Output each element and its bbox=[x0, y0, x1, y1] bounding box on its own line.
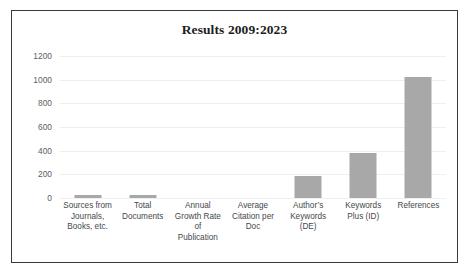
y-axis-tick-label: 1200 bbox=[33, 51, 52, 61]
bar-slot bbox=[336, 56, 391, 198]
bar-slot bbox=[115, 56, 170, 198]
x-axis-category-label: AverageCitation perDoc bbox=[225, 201, 280, 233]
bar[interactable] bbox=[350, 153, 377, 198]
x-axis-label-line: Books, etc. bbox=[67, 222, 108, 231]
x-axis-category-label: AnnualGrowth RateofPublication bbox=[170, 201, 225, 243]
y-axis-tick-label: 800 bbox=[38, 98, 52, 108]
x-axis-label-line: Growth Rate bbox=[175, 212, 221, 221]
x-axis: Sources fromJournals,Books, etc.TotalDoc… bbox=[60, 201, 446, 263]
y-axis: 120010008006004002000 bbox=[12, 56, 56, 198]
bar-series bbox=[60, 56, 446, 198]
x-axis-label-line: Documents bbox=[122, 212, 163, 221]
bar-slot bbox=[391, 56, 446, 198]
x-axis-label-line: Citation per bbox=[232, 212, 274, 221]
y-axis-tick-label: 600 bbox=[38, 122, 52, 132]
bar-slot bbox=[281, 56, 336, 198]
bar[interactable] bbox=[405, 77, 432, 198]
x-axis-label-line: Doc bbox=[246, 222, 261, 231]
bar[interactable] bbox=[74, 195, 101, 198]
chart-canvas: Results 2009:2023 120010008006004002000 … bbox=[12, 11, 457, 262]
x-axis-label-line: of bbox=[194, 222, 201, 231]
x-axis-label-line: (DE) bbox=[300, 222, 317, 231]
bar-slot bbox=[60, 56, 115, 198]
x-axis-label-line: Author’s bbox=[293, 201, 323, 210]
x-axis-category-label: References bbox=[391, 201, 446, 212]
y-axis-tick-label: 1000 bbox=[33, 75, 52, 85]
bar[interactable] bbox=[129, 195, 156, 198]
y-axis-tick-label: 400 bbox=[38, 146, 52, 156]
x-axis-category-label: TotalDocuments bbox=[115, 201, 170, 222]
bar-slot bbox=[225, 56, 280, 198]
gridline bbox=[60, 198, 446, 199]
chart-title: Results 2009:2023 bbox=[12, 22, 457, 38]
x-axis-label-line: Keywords bbox=[290, 212, 326, 221]
bar-slot bbox=[170, 56, 225, 198]
bar[interactable] bbox=[295, 176, 322, 198]
x-axis-label-line: Keywords bbox=[345, 201, 381, 210]
y-axis-tick-label: 0 bbox=[47, 193, 52, 203]
x-axis-category-label: Author’sKeywords(DE) bbox=[281, 201, 336, 233]
x-axis-label-line: References bbox=[397, 201, 439, 210]
y-axis-tick-label: 200 bbox=[38, 169, 52, 179]
x-axis-label-line: Sources from bbox=[63, 201, 112, 210]
x-axis-category-label: Sources fromJournals,Books, etc. bbox=[60, 201, 115, 233]
plot-area bbox=[60, 56, 446, 198]
x-axis-label-line: Publication bbox=[178, 233, 218, 242]
x-axis-label-line: Plus (ID) bbox=[347, 212, 379, 221]
x-axis-category-label: KeywordsPlus (ID) bbox=[336, 201, 391, 222]
x-axis-label-line: Total bbox=[134, 201, 151, 210]
chart-frame: Results 2009:2023 120010008006004002000 … bbox=[11, 10, 458, 263]
x-axis-label-line: Annual bbox=[185, 201, 211, 210]
x-axis-label-line: Average bbox=[238, 201, 268, 210]
x-axis-label-line: Journals, bbox=[71, 212, 104, 221]
